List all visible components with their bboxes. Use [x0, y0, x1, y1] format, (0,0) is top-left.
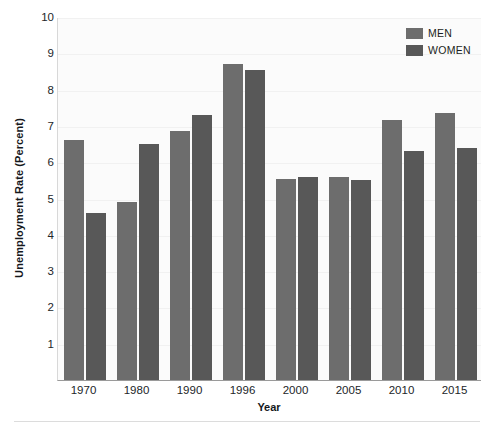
bar-men-1970	[64, 140, 84, 380]
y-axis-tick-labels: 12345678910	[28, 0, 54, 395]
plot-area	[57, 18, 481, 381]
x-axis-tick-2000: 2000	[283, 384, 309, 396]
y-axis-tick-8: 8	[28, 85, 54, 97]
bar-men-1996	[223, 64, 243, 380]
legend-item-women: WOMEN	[406, 43, 471, 57]
bar-group-1970	[64, 18, 106, 380]
x-axis-tick-2005: 2005	[336, 384, 362, 396]
bar-group-2000	[276, 18, 318, 380]
y-axis-tick-2: 2	[28, 303, 54, 315]
x-axis-tick-2015: 2015	[442, 384, 468, 396]
y-axis-tick-3: 3	[28, 266, 54, 278]
bar-men-2005	[329, 177, 349, 380]
chart-legend: MENWOMEN	[406, 26, 471, 60]
bar-women-2005	[351, 180, 371, 380]
legend-label: WOMEN	[428, 44, 471, 56]
bar-group-2010	[382, 18, 424, 380]
legend-swatch-icon	[406, 28, 423, 39]
legend-label: MEN	[428, 27, 452, 39]
bar-group-2015	[435, 18, 477, 380]
x-axis-tick-1990: 1990	[177, 384, 203, 396]
legend-item-men: MEN	[406, 26, 471, 40]
bar-chart: Unemployment Rate (Percent) 12345678910 …	[0, 0, 493, 430]
y-axis-tick-6: 6	[28, 157, 54, 169]
bar-group-1980	[117, 18, 159, 380]
bar-women-2000	[298, 177, 318, 380]
bar-women-1970	[86, 213, 106, 380]
y-axis-tick-9: 9	[28, 49, 54, 61]
y-axis-tick-1: 1	[28, 339, 54, 351]
bar-group-1996	[223, 18, 265, 380]
bar-women-2015	[457, 148, 477, 380]
y-axis-tick-5: 5	[28, 194, 54, 206]
bar-women-2010	[404, 151, 424, 380]
x-axis-tick-1996: 1996	[230, 384, 256, 396]
bar-women-1980	[139, 144, 159, 380]
bar-men-1990	[170, 131, 190, 380]
page-edge-artifact	[0, 60, 3, 360]
bar-men-2015	[435, 113, 455, 380]
footer-divider	[14, 421, 480, 422]
y-axis-tick-10: 10	[28, 12, 54, 24]
x-axis-tick-1980: 1980	[124, 384, 150, 396]
y-axis-tick-7: 7	[28, 121, 54, 133]
bar-group-1990	[170, 18, 212, 380]
x-axis-title: Year	[57, 401, 481, 413]
bars-layer	[58, 18, 481, 380]
bar-men-2010	[382, 120, 402, 380]
bar-women-1996	[245, 70, 265, 380]
x-axis-tick-2010: 2010	[389, 384, 415, 396]
y-axis-title: Unemployment Rate (Percent)	[8, 0, 30, 395]
legend-swatch-icon	[406, 45, 423, 56]
bar-women-1990	[192, 115, 212, 380]
bar-men-2000	[276, 179, 296, 380]
bar-group-2005	[329, 18, 371, 380]
x-axis-tick-1970: 1970	[71, 384, 97, 396]
x-axis-tick-labels: 19701980199019962000200520102015	[57, 384, 481, 402]
y-axis-title-label: Unemployment Rate (Percent)	[13, 118, 25, 278]
bar-men-1980	[117, 202, 137, 380]
y-axis-tick-4: 4	[28, 230, 54, 242]
